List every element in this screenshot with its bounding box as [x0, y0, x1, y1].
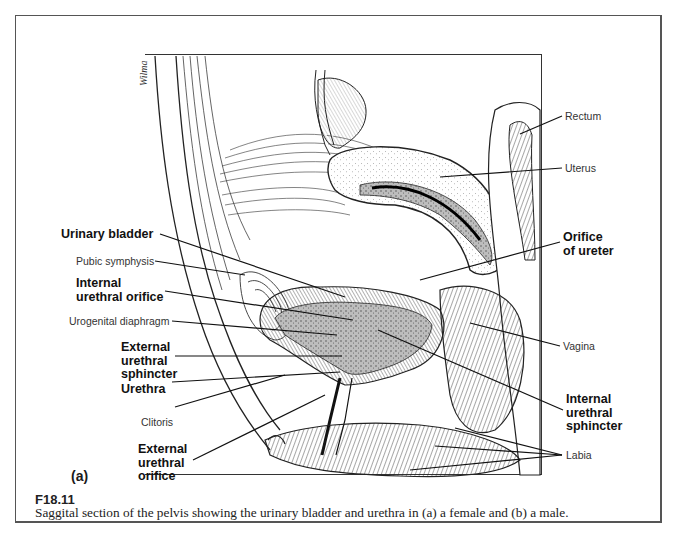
label-urethra: Urethra — [121, 383, 165, 397]
figure-caption: Saggital section of the pelvis showing t… — [35, 505, 569, 521]
vagina-shape — [440, 286, 524, 432]
label-internal-urethral-orifice: Internal urethral orifice — [76, 277, 164, 304]
label-clitoris: Clitoris — [141, 416, 173, 428]
label-uterus: Uterus — [565, 162, 596, 174]
label-orifice-of-ureter: Orifice of ureter — [563, 231, 614, 258]
label-pubic-symphysis: Pubic symphysis — [76, 255, 154, 267]
panel-letter: (a) — [71, 468, 88, 484]
label-external-urethral-sphincter: External urethral sphincter — [121, 341, 177, 382]
label-urinary-bladder: Urinary bladder — [61, 228, 153, 242]
label-urogenital-diaphragm: Urogenital diaphragm — [69, 315, 169, 327]
uterus-shape — [328, 147, 506, 275]
label-labia: Labia — [566, 449, 592, 461]
artist-signature: Wilma — [138, 60, 149, 86]
label-external-urethral-orifice: External urethral orifice — [138, 443, 187, 484]
label-rectum: Rectum — [565, 110, 601, 122]
label-vagina: Vagina — [563, 340, 595, 352]
label-internal-urethral-sphincter: Internal urethral sphincter — [566, 393, 622, 434]
urinary-bladder-shape — [260, 287, 444, 385]
